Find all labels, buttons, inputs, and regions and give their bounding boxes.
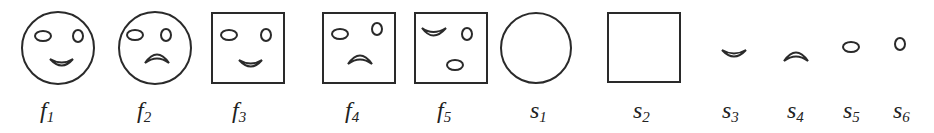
label-s6: s6: [893, 97, 910, 126]
label-f2: f2: [137, 97, 151, 126]
label-subscript: 1: [47, 109, 55, 125]
label-subscript: 5: [444, 109, 452, 125]
label-subscript: 4: [352, 109, 360, 125]
label-f1: f1: [40, 97, 54, 126]
label-s4: s4: [787, 97, 804, 126]
label-subscript: 3: [731, 109, 739, 125]
label-base: s: [787, 97, 796, 123]
label-s2: s2: [633, 97, 650, 126]
label-subscript: 4: [796, 109, 804, 125]
f5-shape: [415, 13, 487, 83]
f2-shape: [119, 12, 191, 84]
label-base: s: [843, 97, 852, 123]
label-subscript: 6: [902, 109, 910, 125]
label-base: f: [345, 97, 352, 123]
label-f5: f5: [437, 97, 451, 126]
s4-shape: [784, 53, 808, 62]
f4-shape: [323, 13, 395, 83]
label-subscript: 1: [539, 109, 547, 125]
label-base: f: [232, 97, 239, 123]
label-subscript: 2: [642, 109, 650, 125]
label-subscript: 5: [852, 109, 860, 125]
label-s1: s1: [530, 97, 547, 126]
f3-shape: [212, 13, 284, 83]
label-f3: f3: [232, 97, 246, 126]
s6-shape: [895, 38, 905, 50]
f1-shape: [22, 12, 94, 84]
label-base: s: [893, 97, 902, 123]
label-base: f: [437, 97, 444, 123]
label-base: s: [722, 97, 731, 123]
label-f4: f4: [345, 97, 359, 126]
s1-shape: [501, 13, 571, 83]
label-subscript: 3: [239, 109, 247, 125]
s2-shape: [608, 13, 680, 82]
label-subscript: 2: [144, 109, 152, 125]
label-base: f: [40, 97, 47, 123]
s3-shape: [722, 50, 746, 57]
s5-shape: [843, 42, 859, 52]
label-s5: s5: [843, 97, 860, 126]
label-base: f: [137, 97, 144, 123]
label-base: s: [530, 97, 539, 123]
label-s3: s3: [722, 97, 739, 126]
label-base: s: [633, 97, 642, 123]
